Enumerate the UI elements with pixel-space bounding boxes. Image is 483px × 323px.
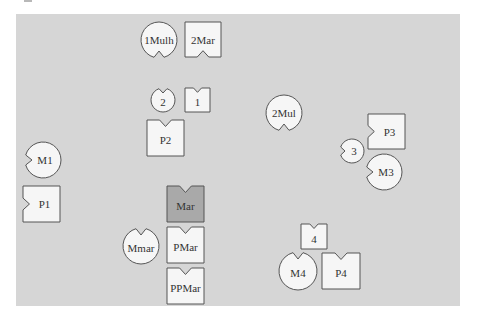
node-label: M4: [290, 267, 306, 279]
node-label: Mar: [176, 200, 195, 212]
node-label: 1: [195, 96, 201, 108]
diagram-svg: 1Mulh2Mar21P22MulP33M3M1P1MarMmarPMarPPM…: [0, 0, 483, 323]
node-label: P2: [160, 134, 172, 146]
node-label: P1: [39, 198, 51, 210]
node-label: P4: [335, 267, 347, 279]
node-label: 2Mar: [191, 34, 215, 46]
node-label: Mmar: [128, 242, 155, 254]
node-label: PPMar: [170, 282, 201, 294]
node-label: 4: [311, 233, 317, 245]
node-label: 3: [351, 145, 357, 157]
node-label: 1Mulh: [144, 34, 174, 46]
diagram-canvas: 1Mulh2Mar21P22MulP33M3M1P1MarMmarPMarPPM…: [0, 0, 483, 323]
node-label: PMar: [173, 241, 198, 253]
node-m4: M4: [279, 253, 317, 290]
node-label: M3: [378, 166, 394, 178]
node-label: 2Mul: [272, 107, 296, 119]
top-edge-mark: [24, 0, 32, 2]
node-label: P3: [384, 126, 396, 138]
node-label: M1: [37, 154, 52, 166]
node-1: 1: [185, 88, 210, 112]
node-label: 2: [160, 96, 166, 108]
